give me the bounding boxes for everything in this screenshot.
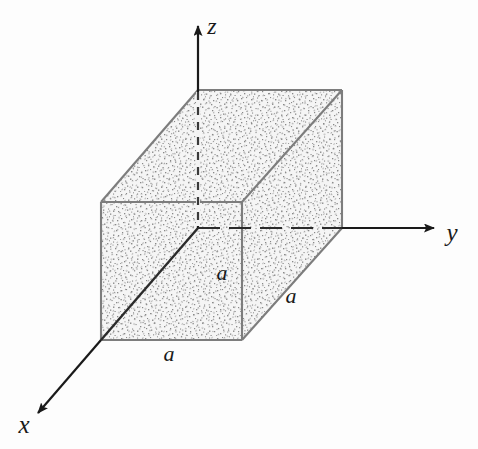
axis-label-x: x	[17, 411, 29, 438]
axis-x-solid	[38, 340, 101, 413]
dimension-label-a-width: a	[164, 341, 175, 366]
cube-body	[101, 90, 342, 340]
axis-x	[38, 340, 101, 413]
dimension-label-a-depth: a	[286, 283, 297, 308]
cube-axes-figure: z y x a a a	[0, 0, 478, 449]
axis-label-z: z	[206, 13, 217, 39]
figure-canvas: z y x a a a	[0, 0, 478, 449]
dimension-label-a-vertical: a	[217, 260, 228, 285]
axis-label-y: y	[443, 219, 458, 246]
